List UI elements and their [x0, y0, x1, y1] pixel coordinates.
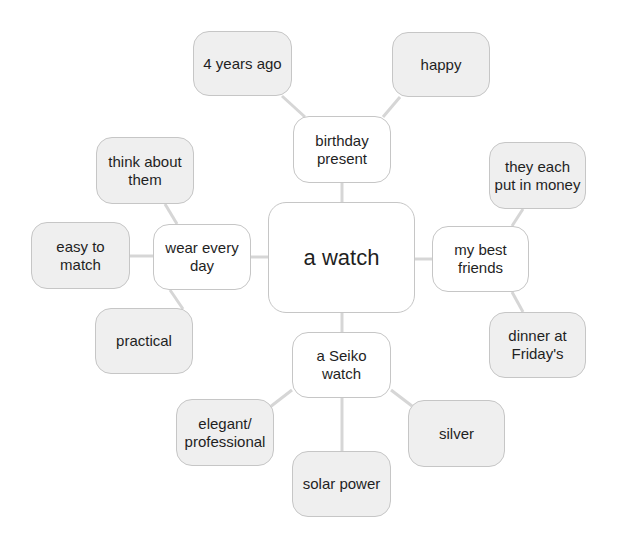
leaf-they-each-put-in-money: they each put in money — [489, 142, 586, 209]
leaf-silver: silver — [408, 400, 505, 467]
leaf-solar-power: solar power — [292, 451, 391, 517]
leaf-dinner-at-fridays: dinner at Friday's — [489, 312, 586, 378]
leaf-happy: happy — [392, 32, 490, 97]
leaf-practical: practical — [95, 308, 193, 374]
leaf-easy-to-match: easy to match — [31, 222, 130, 289]
leaf-4-years-ago: 4 years ago — [193, 31, 292, 96]
leaf-think-about-them: think about them — [96, 137, 194, 204]
leaf-elegant-professional: elegant/ professional — [176, 399, 274, 466]
branch-my-best-friends: my best friends — [432, 226, 529, 292]
branch-a-seiko-watch: a Seiko watch — [292, 332, 391, 398]
branch-wear-every-day: wear every day — [153, 224, 251, 290]
branch-birthday-present: birthday present — [293, 116, 391, 183]
central-node: a watch — [268, 202, 415, 313]
